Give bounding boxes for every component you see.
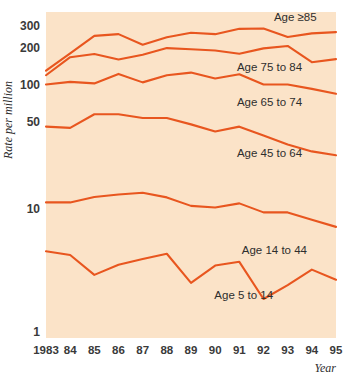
series-label-1: Age 75 to 84	[237, 61, 303, 73]
x-axis-tick-label: 94	[305, 344, 318, 356]
x-axis-tick-label: 92	[257, 344, 270, 356]
series-label-2: Age 65 to 74	[237, 96, 303, 108]
figure-container: 3002001005010119838485868788899091929394…	[0, 0, 344, 380]
x-axis-tick-label: 95	[330, 344, 343, 356]
line-chart: 3002001005010119838485868788899091929394…	[0, 0, 344, 380]
series-label-4: Age 14 to 44	[242, 244, 308, 256]
series-label-3: Age 45 to 64	[237, 147, 303, 159]
x-axis-tick-label: 93	[281, 344, 294, 356]
series-label-5: Age 5 to 14	[214, 289, 273, 301]
y-axis-tick-label: 300	[20, 19, 40, 33]
series-label-0: Age ≥85	[274, 11, 317, 23]
x-axis-tick-label: 89	[185, 344, 198, 356]
y-axis-tick-label: 1	[33, 325, 40, 339]
x-axis-tick-label: 1983	[33, 344, 59, 356]
x-axis-tick-label: 84	[64, 344, 77, 356]
x-axis-tick-label: 85	[88, 344, 101, 356]
x-axis-title: Year	[314, 361, 336, 375]
x-axis-tick-label: 90	[209, 344, 222, 356]
y-axis-tick-label: 100	[20, 78, 40, 92]
x-axis-tick-label: 88	[160, 344, 173, 356]
y-axis-tick-label: 10	[27, 202, 41, 216]
y-axis-tick-label: 50	[27, 115, 41, 129]
x-axis-tick-label: 86	[112, 344, 125, 356]
x-axis-tick-label: 87	[136, 344, 149, 356]
y-axis-title: Rate per million	[1, 81, 15, 160]
y-axis-tick-label: 200	[20, 41, 40, 55]
x-axis-tick-label: 91	[233, 344, 246, 356]
